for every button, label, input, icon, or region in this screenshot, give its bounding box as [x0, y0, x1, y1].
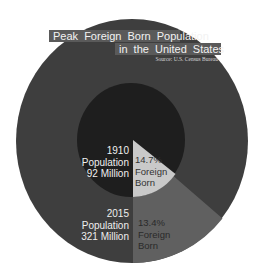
label-2015-word: Population [81, 220, 129, 232]
label-2015-pct: 13.4% [138, 217, 170, 229]
label-2015-foreign: Foreign [138, 229, 170, 241]
chart-title-line2: in the United States [115, 43, 221, 55]
label-1910-total: 92 Million [82, 168, 129, 180]
label-1910-foreign: Foreign [135, 166, 167, 178]
label-1910-population: 1910 Population 92 Million [82, 145, 129, 180]
label-2015-born: Born [138, 240, 170, 252]
label-2015-year: 2015 [81, 208, 129, 220]
nested-pie-chart [0, 0, 263, 280]
label-2015-total: 321 Million [81, 231, 129, 243]
label-2015-population: 2015 Population 321 Million [81, 208, 129, 243]
label-1910-foreign-born: 14.7% Foreign Born [135, 154, 167, 189]
chart-source: Source: U.S. Census Bureau [156, 56, 218, 62]
chart-title-line1: Peak Foreign Born Population [49, 30, 180, 42]
label-2015-foreign-born: 13.4% Foreign Born [138, 217, 170, 252]
label-1910-pct: 14.7% [135, 154, 167, 166]
label-1910-word: Population [82, 157, 129, 169]
label-1910-year: 1910 [82, 145, 129, 157]
label-1910-born: Born [135, 177, 167, 189]
